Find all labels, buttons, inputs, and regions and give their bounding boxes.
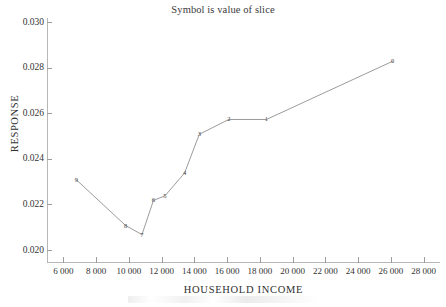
x-axis-tick-label: 24 000 (346, 266, 371, 276)
y-axis-tick (47, 22, 52, 23)
x-axis-tick (293, 257, 294, 263)
x-axis-tick (358, 257, 359, 263)
x-axis-line (47, 262, 440, 263)
y-axis-tick (47, 68, 52, 69)
data-point-marker: 7 (140, 231, 143, 238)
y-axis-tick-label: 0.020 (4, 245, 44, 255)
x-axis-tick (391, 257, 392, 263)
x-axis-tick (162, 257, 163, 263)
data-point-marker: 0 (391, 58, 394, 65)
x-axis-tick (63, 257, 64, 263)
y-axis-title: RESPONSE (9, 84, 20, 164)
data-point-marker: 2 (227, 116, 230, 123)
x-axis-tick-label: 8 000 (86, 266, 106, 276)
data-point-marker: 8 (124, 222, 127, 229)
x-axis-tick (96, 257, 97, 263)
y-axis-tick-label: 0.030 (4, 17, 44, 27)
x-axis-tick-label: 10 000 (117, 266, 142, 276)
y-axis-tick (47, 250, 52, 251)
y-axis-tick-label: 0.028 (4, 62, 44, 72)
x-axis-tick-label: 6 000 (53, 266, 73, 276)
y-axis-tick (47, 159, 52, 160)
data-point-marker: 9 (75, 177, 78, 184)
chart-title: Symbol is value of slice (0, 4, 446, 15)
data-point-marker: 6 (152, 197, 155, 204)
data-series-line (0, 0, 446, 307)
x-axis-tick-label: 26 000 (379, 266, 404, 276)
x-axis-tick (129, 257, 130, 263)
x-axis-title: HOUSEHOLD INCOME (47, 284, 440, 295)
x-axis-tick (260, 257, 261, 263)
x-axis-tick-label: 28 000 (411, 266, 436, 276)
scan-bleed-artifact (128, 296, 318, 303)
x-axis-tick-label: 12 000 (149, 266, 174, 276)
chart-figure: Symbol is value of slice 0.0200.0220.024… (0, 0, 446, 307)
y-axis-tick-label: 0.022 (4, 199, 44, 209)
data-point-marker: 4 (183, 170, 186, 177)
x-axis-tick (227, 257, 228, 263)
data-point-marker: 1 (265, 116, 268, 123)
data-point-marker: 5 (163, 193, 166, 200)
x-axis-tick-label: 16 000 (215, 266, 240, 276)
x-axis-tick-label: 14 000 (182, 266, 207, 276)
y-axis-tick (47, 204, 52, 205)
x-axis-tick-label: 20 000 (280, 266, 305, 276)
y-axis-tick (47, 113, 52, 114)
x-axis-tick (424, 257, 425, 263)
x-axis-tick (325, 257, 326, 263)
data-point-marker: 3 (198, 131, 201, 138)
x-axis-tick-label: 22 000 (313, 266, 338, 276)
x-axis-tick-label: 18 000 (248, 266, 273, 276)
x-axis-tick (194, 257, 195, 263)
y-axis-line (47, 18, 48, 262)
